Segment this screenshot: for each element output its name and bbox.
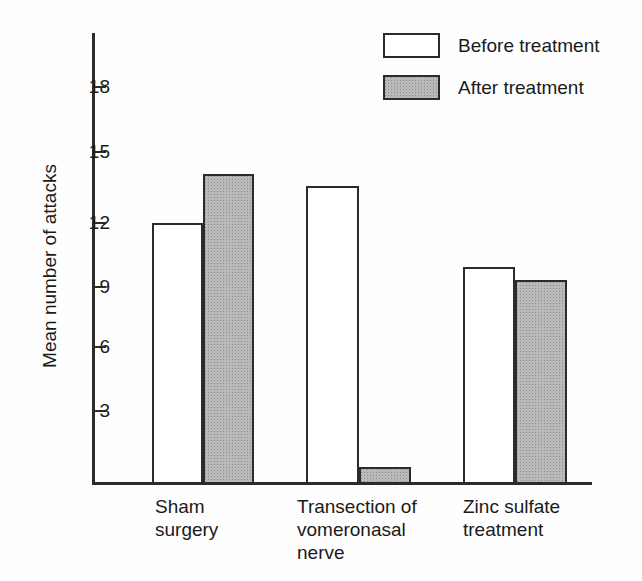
bar-zinc-after[interactable]	[515, 280, 567, 484]
x-category-label-zinc: Zinc sulfate treatment	[463, 495, 560, 541]
bar-chart-figure: Mean number of attacks 18 15 12 9 6 3 Sh…	[0, 0, 642, 581]
bar-transection-before[interactable]	[306, 186, 359, 484]
x-category-transection-line-1: vomeronasal	[297, 518, 417, 541]
legend-label-before: Before treatment	[458, 36, 600, 55]
x-category-label-transection: Transection of vomeronasal nerve	[297, 495, 417, 564]
x-category-zinc-line-0: Zinc sulfate	[463, 495, 560, 518]
legend-swatch-after-icon	[383, 75, 440, 100]
legend: Before treatment After treatment	[383, 33, 600, 117]
x-category-transection-line-0: Transection of	[297, 495, 417, 518]
bar-transection-after[interactable]	[359, 467, 411, 484]
x-category-label-sham: Sham surgery	[155, 495, 218, 541]
legend-item-after[interactable]: After treatment	[383, 75, 600, 100]
x-category-zinc-line-1: treatment	[463, 518, 560, 541]
legend-label-after: After treatment	[458, 78, 584, 97]
x-category-transection-line-2: nerve	[297, 541, 417, 564]
bar-sham-after[interactable]	[203, 174, 254, 484]
legend-item-before[interactable]: Before treatment	[383, 33, 600, 58]
bar-zinc-before[interactable]	[463, 267, 515, 484]
x-category-sham-line-1: surgery	[155, 518, 218, 541]
x-category-sham-line-0: Sham	[155, 495, 218, 518]
bar-sham-before[interactable]	[152, 223, 203, 484]
legend-swatch-before-icon	[383, 33, 440, 58]
